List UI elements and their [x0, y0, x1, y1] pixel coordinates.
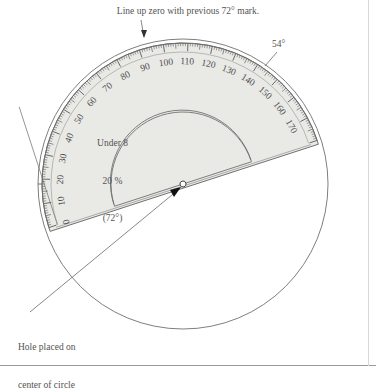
sector-label-line3: (72°)	[55, 212, 170, 225]
frame-bottom-rule	[0, 365, 376, 366]
hole-note-line1: Hole placed on	[18, 341, 168, 354]
angle-callout-label: 54°	[272, 38, 312, 51]
frame-right-rule	[368, 0, 369, 366]
hole-note: Hole placed on center of circle	[18, 316, 168, 392]
sector-label: Under 8 20 % (72°)	[55, 112, 170, 250]
zero-mark-arrowhead	[141, 30, 147, 38]
protractor-scale-number: 110	[180, 56, 194, 66]
caption-top: Line up zero with previous 72° mark.	[0, 5, 376, 18]
angle-callout-leader	[265, 52, 277, 66]
sector-label-line2: 20 %	[55, 175, 170, 188]
protractor-scale-number: 100	[158, 56, 174, 68]
hole-note-line2: center of circle	[18, 379, 168, 392]
sector-label-line1: Under 8	[55, 137, 170, 150]
